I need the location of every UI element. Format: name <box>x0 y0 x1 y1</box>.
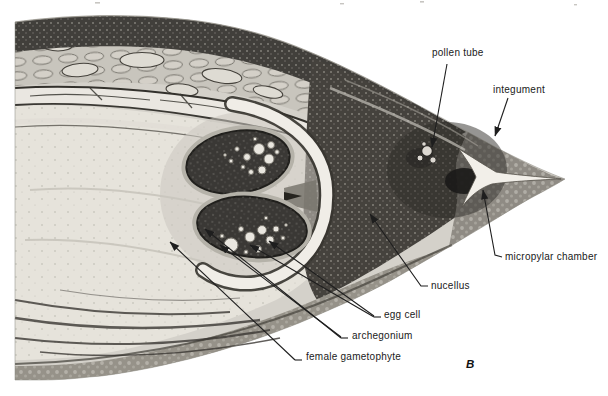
label-nucellus: nucellus <box>431 280 470 292</box>
micrograph-image <box>0 0 608 396</box>
scan-specks <box>95 1 577 5</box>
label-integument: integument <box>493 84 545 96</box>
figure-panel: pollen tube integument micropylar chambe… <box>0 0 608 396</box>
label-pollen-tube: pollen tube <box>432 47 484 59</box>
label-archegonium: archegonium <box>352 330 413 342</box>
label-egg-cell: egg cell <box>384 309 420 321</box>
label-female-gametophyte: female gametophyte <box>306 351 401 363</box>
label-micropylar-chamber: micropylar chamber <box>505 251 597 263</box>
integument-arrow <box>495 98 508 136</box>
panel-letter: B <box>466 358 474 370</box>
